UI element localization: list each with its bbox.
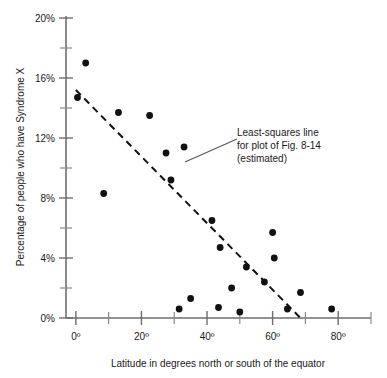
y-tick-label: 4%: [41, 253, 56, 264]
data-point: [115, 109, 122, 116]
annotation-label: Least-squares line for plot of Fig. 8-14…: [237, 127, 321, 164]
data-points: [74, 60, 335, 316]
data-point: [163, 150, 170, 157]
x-tick-label: 60º: [265, 331, 280, 342]
data-point: [271, 255, 278, 262]
data-point: [74, 94, 81, 101]
data-point: [236, 309, 243, 316]
data-point: [181, 144, 188, 151]
y-tick-label: 0%: [41, 313, 56, 324]
data-point: [215, 304, 222, 311]
data-point: [146, 112, 153, 119]
x-axis-tick-labels: 0º20º40º60º80º: [71, 331, 346, 342]
data-point: [297, 289, 304, 296]
x-tick-label: 80º: [331, 331, 346, 342]
data-point: [284, 306, 291, 313]
data-point: [217, 244, 224, 251]
data-point: [269, 229, 276, 236]
data-point: [328, 306, 335, 313]
y-tick-label: 12%: [35, 133, 55, 144]
scatter-chart: 0%4%8%12%16%20% Percentage of people who…: [0, 0, 387, 378]
x-axis-title: Latitude in degrees north or south of th…: [111, 358, 326, 369]
annotation-line-3: (estimated): [237, 153, 287, 164]
y-tick-label: 20%: [35, 13, 55, 24]
y-tick-label: 8%: [41, 193, 56, 204]
data-point: [261, 279, 268, 286]
x-tick-label: 20º: [134, 331, 149, 342]
x-tick-label: 40º: [200, 331, 215, 342]
y-axis-title: Percentage of people who have Syndrome X: [15, 67, 26, 266]
annotation-line-2: for plot of Fig. 8-14: [237, 140, 321, 151]
data-point: [243, 264, 250, 271]
annotation-line-1: Least-squares line: [237, 127, 319, 138]
y-axis: 0%4%8%12%16%20% Percentage of people who…: [15, 13, 73, 324]
data-point: [209, 217, 216, 224]
data-point: [100, 190, 107, 197]
data-point: [176, 306, 183, 313]
data-point: [82, 60, 89, 67]
data-point: [168, 177, 175, 184]
chart-canvas: 0%4%8%12%16%20% Percentage of people who…: [0, 0, 387, 378]
y-tick-label: 16%: [35, 73, 55, 84]
data-point: [187, 295, 194, 302]
y-axis-tick-labels: 0%4%8%12%16%20%: [35, 13, 55, 324]
data-point: [228, 285, 235, 292]
annotation-leader-line: [185, 139, 237, 162]
x-axis: 0º20º40º60º80º Latitude in degrees north…: [66, 311, 371, 369]
x-tick-label: 0º: [71, 331, 81, 342]
